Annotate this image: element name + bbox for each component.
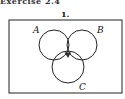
circle-a — [39, 30, 69, 60]
label-a: A — [32, 25, 40, 35]
label-c: C — [79, 82, 86, 92]
universal-set-rectangle — [9, 20, 122, 93]
venn-diagram: A B C — [0, 0, 125, 99]
label-b: B — [96, 25, 104, 35]
circle-b — [67, 30, 97, 60]
